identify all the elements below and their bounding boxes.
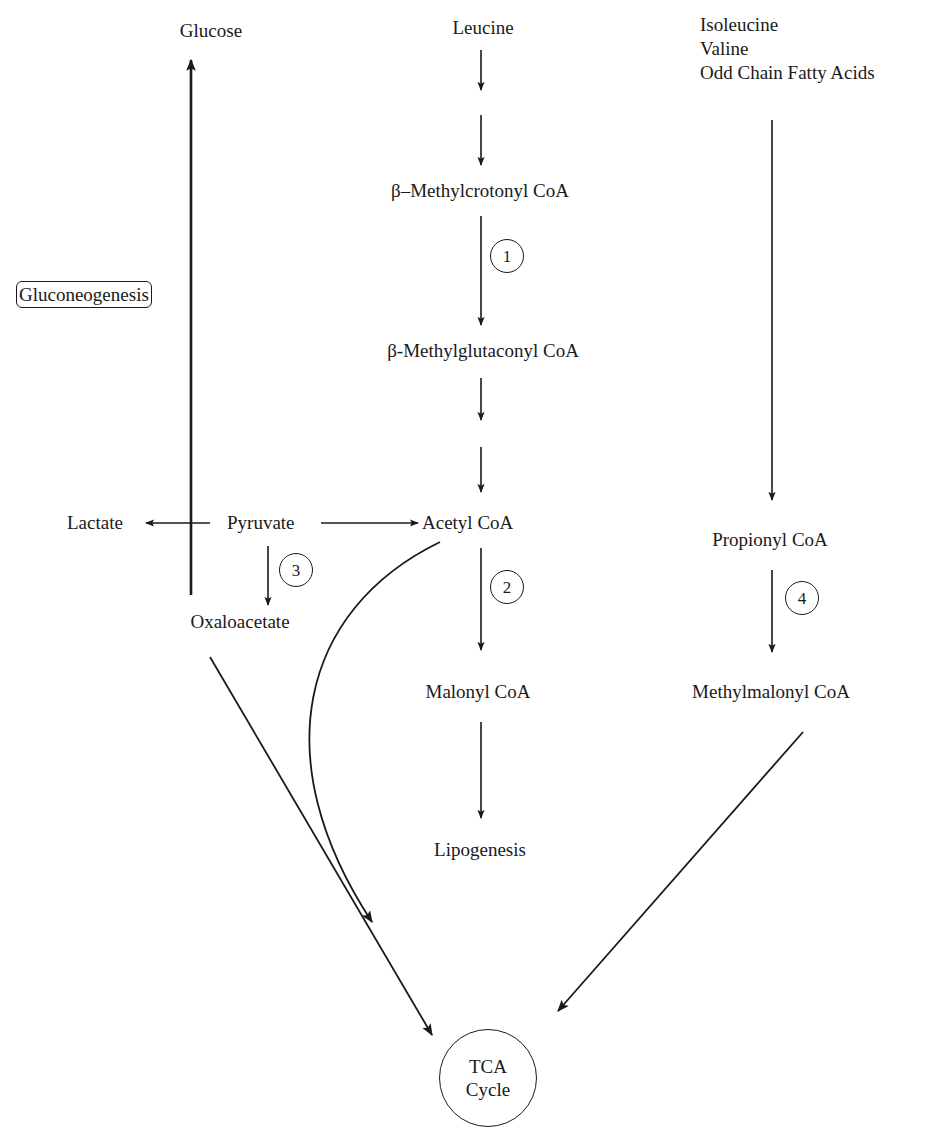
tca-label-line1: TCA <box>469 1055 507 1078</box>
node-acetyl-coa: Acetyl CoA <box>422 511 513 534</box>
node-oxaloacetate: Oxaloacetate <box>190 610 289 633</box>
node-propionyl-coa: Propionyl CoA <box>712 528 828 551</box>
node-beta-methylcrotonyl-coa: β–Methylcrotonyl CoA <box>391 179 569 202</box>
precursor-odd-chain-fatty-acids: Odd Chain Fatty Acids <box>700 61 875 85</box>
arrow-oxaloacetate-to-tca <box>210 657 432 1035</box>
enzyme-step-1-badge: 1 <box>490 239 524 273</box>
node-lactate: Lactate <box>67 511 123 534</box>
arrow-acetyl-to-tca <box>309 542 440 922</box>
enzyme-step-2-badge: 2 <box>490 570 524 604</box>
arrow-methylmalonyl-to-tca <box>558 732 803 1011</box>
node-tca-cycle: TCA Cycle <box>439 1029 537 1127</box>
node-malonyl-coa: Malonyl CoA <box>425 680 530 703</box>
precursor-isoleucine: Isoleucine <box>700 13 875 37</box>
node-beta-methylglutaconyl-coa: β-Methylglutaconyl CoA <box>387 339 579 362</box>
pathway-arrows <box>0 0 932 1139</box>
node-methylmalonyl-coa: Methylmalonyl CoA <box>692 680 850 703</box>
gluconeogenesis-label-box: Gluconeogenesis <box>16 281 152 308</box>
precursor-valine: Valine <box>700 37 875 61</box>
precursor-list: Isoleucine Valine Odd Chain Fatty Acids <box>700 13 875 85</box>
enzyme-step-4-badge: 4 <box>785 581 819 615</box>
node-lipogenesis: Lipogenesis <box>434 838 526 861</box>
node-leucine: Leucine <box>452 16 513 39</box>
node-glucose: Glucose <box>180 19 242 42</box>
tca-label-line2: Cycle <box>466 1078 510 1101</box>
node-pyruvate: Pyruvate <box>227 511 295 534</box>
enzyme-step-3-badge: 3 <box>279 553 313 587</box>
